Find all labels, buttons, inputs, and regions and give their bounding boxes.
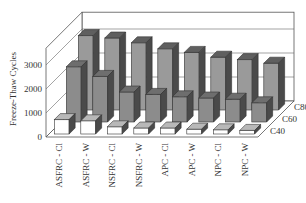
- bar-C60-4: [172, 91, 193, 122]
- y-axis-title: Freeze-Thaw Cycles: [8, 51, 18, 126]
- depth-label: C80: [294, 102, 306, 112]
- category-label: ASFRC - W: [81, 143, 91, 188]
- bar-C60-3: [146, 88, 167, 122]
- bar-C40-1: [81, 115, 102, 134]
- category-label: APC - Cl: [160, 143, 170, 177]
- y-tick-label: 3000: [24, 60, 43, 70]
- y-tick-label: 1000: [24, 108, 43, 118]
- y-tick-label: 0: [38, 132, 43, 142]
- bar-C60-5: [199, 92, 220, 122]
- freeze-thaw-3d-bar-chart: 0100020003000Freeze-Thaw CyclesASFRC - C…: [0, 0, 306, 203]
- category-label: ASFRC - Cl: [54, 143, 64, 188]
- bar-C60-1: [93, 70, 114, 122]
- bar-C60-6: [225, 93, 246, 122]
- category-label: NSFRC - W: [134, 143, 144, 188]
- bar-C60-7: [252, 97, 273, 122]
- category-label: NSFRC - Cl: [107, 143, 117, 188]
- depth-label: C60: [282, 114, 298, 124]
- category-label: NPC - Cl: [213, 143, 223, 177]
- bar-C60-2: [119, 86, 140, 122]
- y-tick-label: 2000: [24, 84, 43, 94]
- depth-label: C40: [270, 126, 286, 136]
- bar-C60-0: [66, 61, 87, 122]
- category-label: APC - W: [187, 143, 197, 177]
- category-label: NPC - W: [240, 143, 250, 177]
- bar-C40-0: [54, 114, 75, 134]
